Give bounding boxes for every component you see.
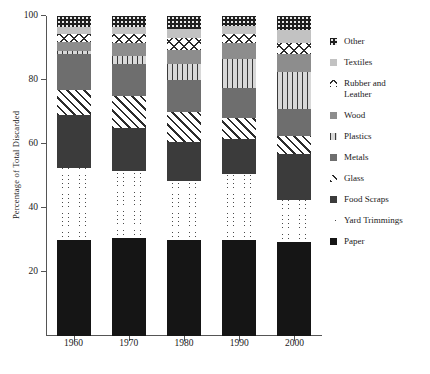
bar-1980[interactable] bbox=[167, 16, 201, 336]
legend-label: Metals bbox=[344, 152, 369, 163]
y-tick-mark bbox=[41, 271, 46, 272]
segment-metals[interactable] bbox=[112, 64, 146, 96]
segment-glass[interactable] bbox=[167, 112, 201, 142]
segment-glass[interactable] bbox=[222, 118, 256, 139]
legend-swatch-icon bbox=[330, 196, 337, 203]
segment-other[interactable] bbox=[57, 16, 91, 27]
x-tick-label: 1960 bbox=[64, 338, 83, 348]
segment-plastics[interactable] bbox=[277, 72, 311, 109]
legend-swatch-icon bbox=[330, 80, 337, 87]
legend-label: Paper bbox=[344, 236, 365, 247]
y-tick-label: 60 bbox=[29, 138, 39, 148]
segment-rubber-and-leather[interactable] bbox=[167, 38, 201, 49]
legend-item-textiles[interactable]: Textiles bbox=[330, 57, 430, 68]
legend-item-wood[interactable]: Wood bbox=[330, 110, 430, 121]
segment-yard-trimmings[interactable] bbox=[222, 174, 256, 240]
segment-wood[interactable] bbox=[112, 43, 146, 56]
y-tick: 100 bbox=[46, 15, 47, 16]
legend-label: Plastics bbox=[344, 131, 372, 142]
segment-textiles[interactable] bbox=[112, 27, 146, 33]
y-tick-label: 20 bbox=[29, 266, 39, 276]
segment-wood[interactable] bbox=[277, 54, 311, 72]
segment-rubber-and-leather[interactable] bbox=[57, 34, 91, 42]
segment-textiles[interactable] bbox=[277, 30, 311, 43]
segment-textiles[interactable] bbox=[57, 27, 91, 33]
y-tick-mark bbox=[41, 15, 46, 16]
segment-textiles[interactable] bbox=[222, 26, 256, 34]
y-tick-label: 80 bbox=[29, 74, 39, 84]
legend-label: Rubber and Leather bbox=[344, 78, 386, 99]
segment-food-scraps[interactable] bbox=[222, 139, 256, 174]
y-tick-mark bbox=[41, 79, 46, 80]
segment-rubber-and-leather[interactable] bbox=[222, 34, 256, 44]
y-axis-line bbox=[46, 16, 47, 336]
y-tick: 80 bbox=[46, 79, 47, 80]
bar-1960[interactable] bbox=[57, 16, 91, 336]
segment-wood[interactable] bbox=[167, 50, 201, 64]
legend-swatch-icon bbox=[330, 154, 337, 161]
segment-other[interactable] bbox=[112, 16, 146, 27]
legend-item-glass[interactable]: Glass bbox=[330, 173, 430, 184]
segment-metals[interactable] bbox=[277, 109, 311, 136]
segment-plastics[interactable] bbox=[222, 59, 256, 88]
legend-item-plastics[interactable]: Plastics bbox=[330, 131, 430, 142]
legend-swatch-icon bbox=[330, 238, 337, 245]
segment-plastics[interactable] bbox=[57, 51, 91, 54]
bar-1970[interactable] bbox=[112, 16, 146, 336]
segment-other[interactable] bbox=[167, 16, 201, 29]
segment-food-scraps[interactable] bbox=[277, 154, 311, 200]
bar-1990[interactable] bbox=[222, 16, 256, 336]
legend-label: Glass bbox=[344, 173, 364, 184]
segment-yard-trimmings[interactable] bbox=[167, 181, 201, 240]
legend-swatch-icon bbox=[330, 133, 337, 140]
segment-rubber-and-leather[interactable] bbox=[112, 34, 146, 44]
legend-item-yard-trimmings[interactable]: Yard Trimmings bbox=[330, 215, 430, 226]
segment-rubber-and-leather[interactable] bbox=[277, 43, 311, 54]
segment-other[interactable] bbox=[277, 16, 311, 30]
y-tick-label: 40 bbox=[29, 202, 39, 212]
segment-food-scraps[interactable] bbox=[112, 128, 146, 171]
legend-swatch-icon bbox=[330, 175, 337, 182]
bar-2000[interactable] bbox=[277, 16, 311, 336]
x-tick-label: 1970 bbox=[119, 338, 138, 348]
legend-item-other[interactable]: Other bbox=[330, 36, 430, 47]
legend-item-rubber-and-leather[interactable]: Rubber and Leather bbox=[330, 78, 430, 99]
segment-yard-trimmings[interactable] bbox=[112, 171, 146, 238]
segment-paper[interactable] bbox=[57, 240, 91, 336]
stacked-bar-chart: Percentage of Total Discarded 2040608010… bbox=[0, 0, 430, 374]
legend-label: Wood bbox=[344, 110, 365, 121]
legend-swatch-icon bbox=[330, 59, 337, 66]
y-axis-title: Percentage of Total Discarded bbox=[11, 65, 21, 265]
segment-wood[interactable] bbox=[57, 42, 91, 52]
y-tick-mark bbox=[41, 207, 46, 208]
segment-paper[interactable] bbox=[277, 242, 311, 336]
x-tick-label: 1980 bbox=[175, 338, 194, 348]
segment-paper[interactable] bbox=[112, 238, 146, 336]
chart-legend: OtherTextilesRubber and LeatherWoodPlast… bbox=[330, 36, 430, 257]
legend-item-food-scraps[interactable]: Food Scraps bbox=[330, 194, 430, 205]
segment-paper[interactable] bbox=[222, 240, 256, 336]
segment-yard-trimmings[interactable] bbox=[57, 168, 91, 240]
segment-metals[interactable] bbox=[57, 54, 91, 89]
segment-other[interactable] bbox=[222, 16, 256, 26]
segment-yard-trimmings[interactable] bbox=[277, 200, 311, 242]
legend-item-paper[interactable]: Paper bbox=[330, 236, 430, 247]
y-tick-label: 100 bbox=[24, 10, 38, 20]
segment-glass[interactable] bbox=[277, 136, 311, 154]
segment-wood[interactable] bbox=[222, 43, 256, 59]
segment-glass[interactable] bbox=[57, 90, 91, 116]
y-tick-mark bbox=[41, 143, 46, 144]
segment-plastics[interactable] bbox=[112, 56, 146, 64]
segment-paper[interactable] bbox=[167, 240, 201, 336]
y-tick: 40 bbox=[46, 207, 47, 208]
y-tick: 20 bbox=[46, 271, 47, 272]
x-tick-label: 2000 bbox=[285, 338, 304, 348]
legend-item-metals[interactable]: Metals bbox=[330, 152, 430, 163]
segment-textiles[interactable] bbox=[167, 29, 201, 39]
segment-food-scraps[interactable] bbox=[57, 115, 91, 168]
segment-metals[interactable] bbox=[222, 88, 256, 118]
segment-glass[interactable] bbox=[112, 96, 146, 128]
segment-food-scraps[interactable] bbox=[167, 142, 201, 180]
segment-plastics[interactable] bbox=[167, 64, 201, 80]
segment-metals[interactable] bbox=[167, 80, 201, 112]
